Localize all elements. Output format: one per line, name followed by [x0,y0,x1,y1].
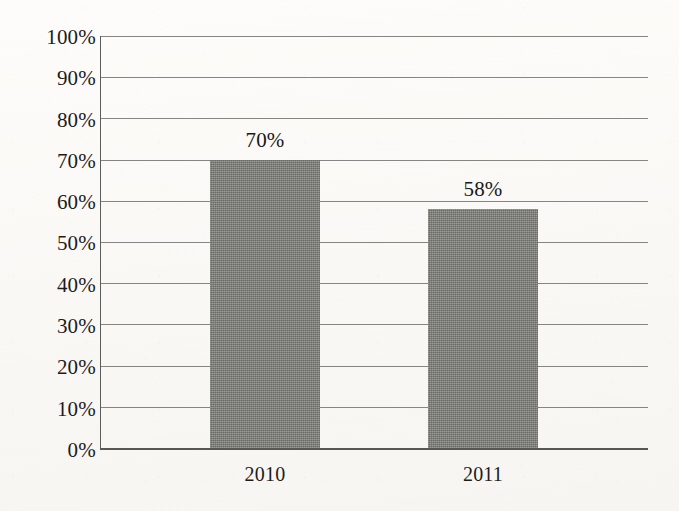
gridline-100 [100,36,648,37]
x-category-label-2010: 2010 [205,464,325,484]
y-tick-label-100: 100% [16,27,96,48]
bar-2010 [210,160,320,448]
gridline-60 [100,201,648,202]
gridline-50 [100,242,648,243]
y-tick-label-30: 30% [16,316,96,337]
gridline-90 [100,77,648,78]
value-label-2011: 58% [428,179,538,200]
gridline-40 [100,283,648,284]
gridline-80 [100,118,648,119]
gridline-30 [100,324,648,325]
plot-area [100,36,648,448]
y-axis-line [100,36,101,449]
x-axis-line [100,448,648,450]
bar-chart: 100% 90% 80% 70% 60% 50% 40% 30% 20% 10%… [0,0,679,511]
value-label-2010: 70% [210,130,320,151]
y-tick-label-90: 90% [16,68,96,89]
y-tick-label-60: 60% [16,192,96,213]
y-tick-label-50: 50% [16,233,96,254]
gridline-10 [100,407,648,408]
y-tick-label-0: 0% [16,440,96,461]
bar-2011 [428,209,538,448]
x-category-label-2011: 2011 [423,464,543,484]
y-tick-label-10: 10% [16,399,96,420]
y-tick-label-20: 20% [16,357,96,378]
y-tick-label-70: 70% [16,151,96,172]
gridline-70 [100,160,648,161]
gridline-20 [100,366,648,367]
y-tick-label-80: 80% [16,110,96,131]
y-tick-label-40: 40% [16,275,96,296]
